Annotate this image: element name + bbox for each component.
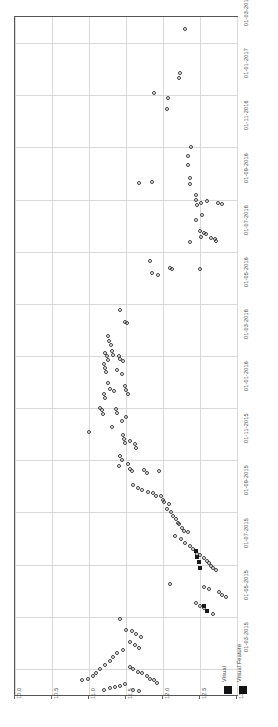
data-point — [110, 349, 114, 353]
data-point — [188, 240, 192, 244]
data-point — [188, 182, 192, 186]
gridline-date-11 — [15, 95, 237, 96]
data-point — [186, 163, 190, 167]
data-point — [194, 198, 198, 202]
data-point — [136, 486, 140, 490]
date-tick-label-5: 01-01-2016 — [243, 361, 249, 391]
data-point — [87, 430, 91, 434]
data-point — [198, 267, 202, 271]
data-point — [121, 359, 125, 363]
gridline-date-8 — [15, 252, 237, 253]
gridline-date-6 — [15, 356, 237, 357]
data-point — [108, 659, 112, 663]
data-point — [146, 490, 150, 494]
data-point — [214, 239, 218, 243]
data-point — [118, 684, 122, 688]
data-point — [118, 308, 122, 312]
value-tick-label-4: 12.0 — [164, 687, 170, 699]
data-point — [103, 396, 107, 400]
plot-area — [14, 16, 238, 696]
legend-entry-1[interactable]: Visual Feature — [237, 640, 251, 694]
data-point — [94, 671, 98, 675]
value-tick-label-1: 10.5 — [53, 687, 59, 699]
date-tick-label-2: 01-07-2015 — [243, 517, 249, 547]
data-point — [112, 389, 116, 393]
gridline-date-12 — [15, 43, 237, 44]
value-tickmark-0 — [14, 696, 15, 699]
data-point — [194, 218, 198, 222]
data-point — [120, 372, 124, 376]
data-point — [177, 76, 181, 80]
data-point — [182, 529, 186, 533]
value-tick-label-0: 10.0 — [16, 687, 22, 699]
date-tick-label-11: 01-01-2017 — [243, 48, 249, 78]
data-point — [202, 604, 206, 608]
data-point — [124, 415, 128, 419]
value-tick-label-5: 12.5 — [201, 687, 207, 699]
data-point — [128, 439, 132, 443]
data-point — [130, 629, 134, 633]
legend-swatch-1 — [239, 686, 247, 694]
data-point — [197, 560, 201, 564]
data-point — [137, 181, 141, 185]
value-tickmark-3 — [125, 696, 126, 699]
data-point — [120, 419, 124, 423]
date-tick-label-8: 01-07-2016 — [243, 205, 249, 235]
data-point — [106, 334, 110, 338]
data-point — [165, 107, 169, 111]
date-tick-label-7: 01-05-2016 — [243, 257, 249, 287]
data-point — [186, 530, 190, 534]
legend-entry-0[interactable]: Visual — [222, 640, 236, 694]
data-point — [152, 91, 156, 95]
data-point — [183, 541, 187, 545]
data-point — [157, 469, 161, 473]
date-tick-label-1: 01-05-2015 — [243, 570, 249, 600]
date-tick-label-6: 01-03-2016 — [243, 309, 249, 339]
data-point — [202, 585, 206, 589]
data-point — [91, 674, 95, 678]
date-tick-label-9: 01-09-2016 — [243, 152, 249, 182]
data-point — [199, 235, 203, 239]
data-point — [131, 667, 135, 671]
data-point — [199, 201, 203, 205]
data-point — [205, 609, 209, 613]
data-point — [113, 685, 117, 689]
data-point — [211, 612, 215, 616]
data-point — [200, 213, 204, 217]
data-point — [186, 154, 190, 158]
value-tickmark-5 — [199, 696, 200, 699]
data-point — [168, 582, 172, 586]
data-point — [104, 370, 108, 374]
data-point — [155, 681, 159, 685]
data-point — [121, 648, 125, 652]
legend-swatch-0 — [224, 686, 232, 694]
gridline-date-10 — [15, 147, 237, 148]
data-point — [124, 628, 128, 632]
data-point — [194, 549, 198, 553]
gridline-date-1 — [15, 617, 237, 618]
gridline-date-7 — [15, 304, 237, 305]
data-point — [154, 494, 158, 498]
data-point — [150, 271, 154, 275]
data-point — [126, 392, 130, 396]
data-point — [140, 671, 144, 675]
data-point — [204, 232, 208, 236]
data-point — [98, 667, 102, 671]
data-point — [123, 682, 127, 686]
data-point — [170, 267, 174, 271]
data-point — [220, 202, 224, 206]
value-tickmark-2 — [88, 696, 89, 699]
data-point — [80, 678, 84, 682]
data-point — [179, 537, 183, 541]
data-point — [120, 458, 124, 462]
data-point — [136, 670, 140, 674]
data-point — [109, 343, 113, 347]
data-point — [198, 566, 202, 570]
gridline-value-6 — [237, 17, 238, 695]
data-point — [106, 358, 110, 362]
legend-label-0: Visual — [221, 666, 227, 682]
data-point — [134, 632, 138, 636]
value-tick-label-3: 11.5 — [127, 688, 133, 699]
data-point — [148, 259, 152, 263]
data-point — [188, 176, 192, 180]
